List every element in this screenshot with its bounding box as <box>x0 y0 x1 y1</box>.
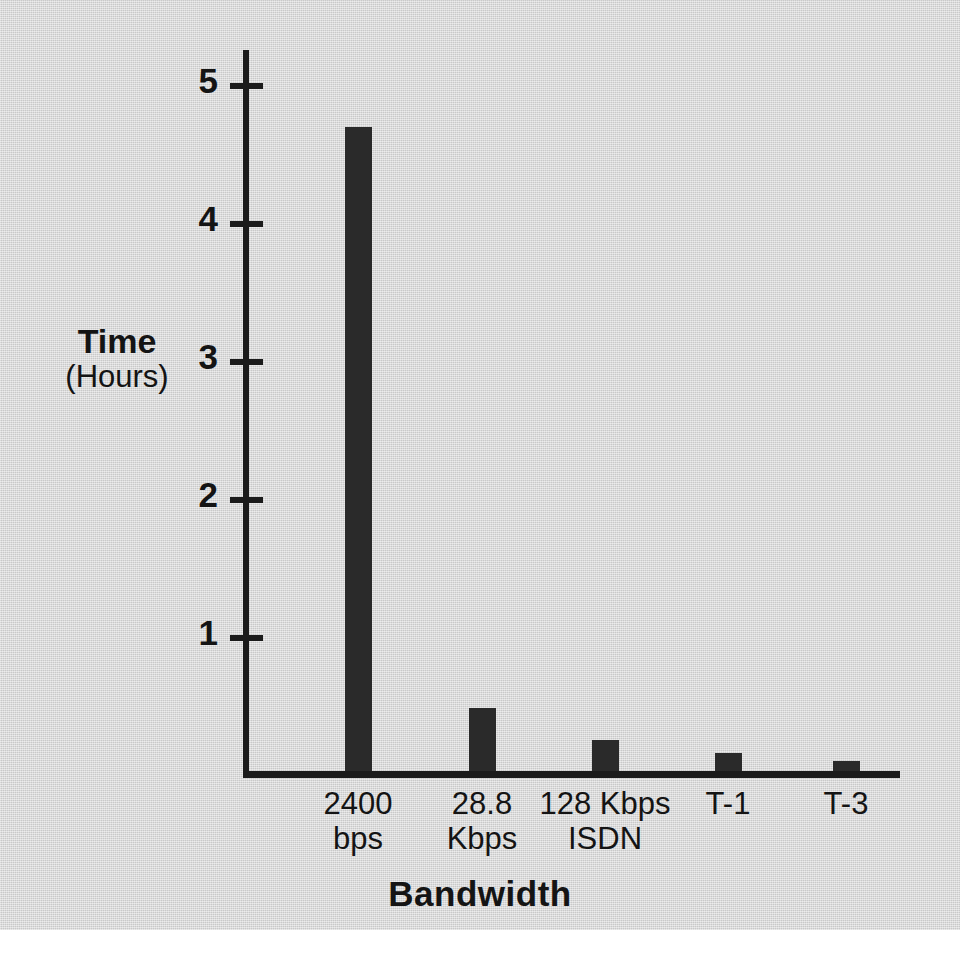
bar-t-1 <box>715 753 742 772</box>
y-axis-title-main: Time <box>22 322 212 360</box>
y-axis-title-units: (Hours) <box>22 360 212 395</box>
bar-128-kbps-isdn <box>592 740 619 772</box>
y-axis-line <box>243 50 249 777</box>
page-bottom-margin <box>0 930 960 959</box>
y-axis-title: Time (Hours) <box>22 322 212 395</box>
y-tick-4 <box>230 221 263 227</box>
x-label-line1: T-3 <box>746 786 946 821</box>
y-tick-label-5: 5 <box>158 63 218 98</box>
y-tick-5 <box>230 83 263 89</box>
bar-28-8-kbps <box>469 708 496 772</box>
y-tick-2 <box>230 497 263 503</box>
y-tick-label-2: 2 <box>158 477 218 512</box>
bar-chart-figure: 5 4 3 2 1 Time (Hours) 2400 bps 28.8 Kbp… <box>0 0 960 930</box>
y-tick-3 <box>230 359 263 365</box>
bar-2400-bps <box>345 127 372 772</box>
x-axis-line <box>243 771 900 778</box>
y-tick-label-4: 4 <box>158 201 218 236</box>
y-tick-1 <box>230 635 263 641</box>
y-tick-label-1: 1 <box>158 615 218 650</box>
x-axis-title: Bandwidth <box>0 874 960 914</box>
x-label-t-3: T-3 <box>746 786 946 821</box>
x-label-line2: ISDN <box>505 821 705 856</box>
